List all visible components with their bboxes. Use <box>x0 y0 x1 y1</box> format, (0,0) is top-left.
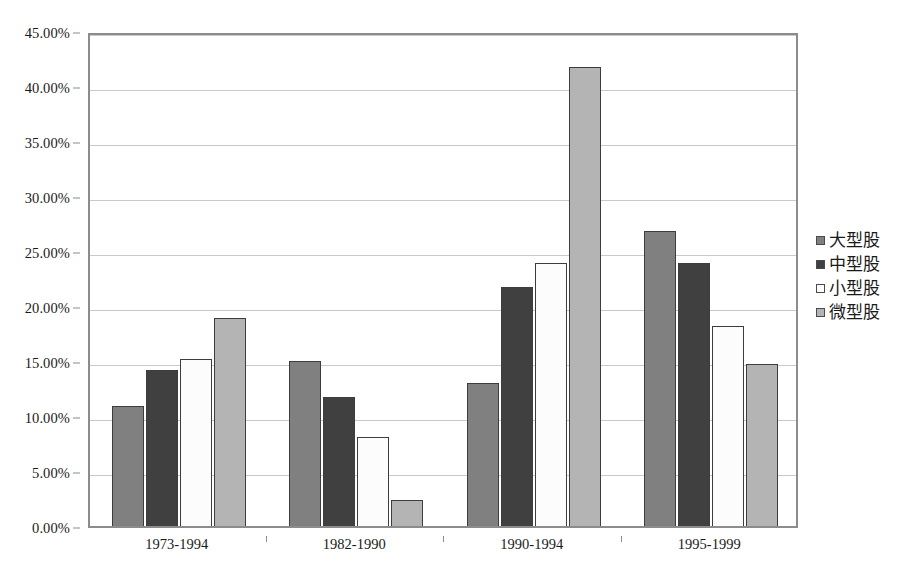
x-tick-label: 1982-1990 <box>266 536 444 566</box>
legend-item: 微型股 <box>816 300 896 324</box>
bar-group <box>623 35 801 526</box>
y-tick-mark <box>73 198 80 199</box>
x-tick-mark <box>621 536 622 542</box>
y-tick-label: 45.00% <box>25 25 70 42</box>
bar <box>678 263 710 526</box>
x-tick-label: 1995-1999 <box>621 536 799 566</box>
legend-swatch-icon <box>816 260 825 269</box>
bar <box>180 359 212 526</box>
legend-swatch-icon <box>816 284 825 293</box>
bar <box>467 383 499 526</box>
y-tick-label: 5.00% <box>32 465 70 482</box>
legend-swatch-icon <box>816 236 825 245</box>
bar <box>569 67 601 526</box>
bar-chart: 0.00%5.00%10.00%15.00%20.00%25.00%30.00%… <box>0 0 907 583</box>
legend-item: 中型股 <box>816 252 896 276</box>
x-axis: 1973-19941982-19901990-19941995-1999 <box>88 536 798 566</box>
legend-label: 小型股 <box>829 280 880 297</box>
bar <box>112 406 144 526</box>
y-tick-mark <box>73 308 80 309</box>
y-tick-mark <box>73 473 80 474</box>
legend-label: 大型股 <box>829 232 880 249</box>
x-tick-mark <box>266 536 267 542</box>
x-tick-label: 1990-1994 <box>443 536 621 566</box>
bar <box>289 361 321 526</box>
y-tick-label: 35.00% <box>25 135 70 152</box>
bar <box>391 500 423 526</box>
plot-inner <box>90 35 796 526</box>
legend-item: 大型股 <box>816 228 896 252</box>
y-tick-label: 0.00% <box>32 520 70 537</box>
legend: 大型股中型股小型股微型股 <box>812 224 900 329</box>
y-tick-mark <box>73 88 80 89</box>
plot-area <box>88 33 798 528</box>
y-tick-label: 15.00% <box>25 355 70 372</box>
y-tick-label: 20.00% <box>25 300 70 317</box>
x-tick-mark <box>443 536 444 542</box>
y-tick-mark <box>73 363 80 364</box>
bar <box>501 287 533 526</box>
bar-group <box>268 35 446 526</box>
y-tick-mark <box>73 528 80 529</box>
bar <box>214 318 246 526</box>
bar <box>644 231 676 526</box>
bar-group <box>90 35 268 526</box>
y-tick-mark <box>73 418 80 419</box>
bar <box>712 326 744 526</box>
y-tick-mark <box>73 143 80 144</box>
legend-item: 小型股 <box>816 276 896 300</box>
legend-label: 微型股 <box>829 304 880 321</box>
legend-label: 中型股 <box>829 256 880 273</box>
y-tick-label: 25.00% <box>25 245 70 262</box>
y-tick-label: 10.00% <box>25 410 70 427</box>
y-tick-label: 30.00% <box>25 190 70 207</box>
x-tick-label: 1973-1994 <box>88 536 266 566</box>
bar <box>746 364 778 526</box>
bar <box>323 397 355 526</box>
y-tick-mark <box>73 253 80 254</box>
bar <box>357 437 389 526</box>
bar-group <box>445 35 623 526</box>
y-tick-mark <box>73 33 80 34</box>
y-tick-label: 40.00% <box>25 80 70 97</box>
y-axis: 0.00%5.00%10.00%15.00%20.00%25.00%30.00%… <box>0 33 80 528</box>
bar <box>146 370 178 526</box>
bar <box>535 263 567 526</box>
legend-swatch-icon <box>816 308 825 317</box>
